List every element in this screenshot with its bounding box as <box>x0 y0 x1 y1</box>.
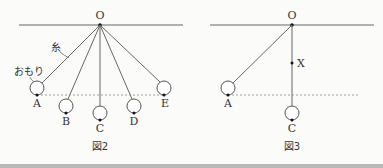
string-pointer <box>60 52 69 58</box>
label-a: A <box>32 97 42 110</box>
label-c: C <box>96 122 104 135</box>
nail-x <box>291 62 294 65</box>
label-c: C <box>288 122 296 135</box>
weight-d <box>127 99 141 113</box>
figure-2: O A B C D E 糸 おもり 図2 <box>14 9 183 152</box>
label-e: E <box>161 97 169 110</box>
string-e <box>100 25 160 82</box>
string-a <box>42 25 100 83</box>
string-b <box>68 25 100 99</box>
pivot-label: O <box>95 9 104 22</box>
weight-a <box>221 81 235 95</box>
figure-3: O X A C 図3 <box>210 9 374 152</box>
label-b: B <box>62 115 70 128</box>
figure-3-caption: 図3 <box>284 141 300 152</box>
weight-c <box>285 106 299 120</box>
weight-pointer <box>30 77 34 82</box>
weight-a <box>30 81 44 95</box>
string-a <box>233 25 292 83</box>
weight-e <box>157 81 171 95</box>
weight-label: おもり <box>14 66 44 77</box>
weight-b <box>59 99 73 113</box>
string-d <box>100 25 132 99</box>
bottom-divider <box>0 164 383 168</box>
string-label: 糸 <box>51 42 61 53</box>
nail-label: X <box>297 57 305 70</box>
diagram-canvas: O A B C D E 糸 おもり 図2 O X <box>0 0 383 168</box>
pivot-label: O <box>287 9 296 22</box>
pendulum-diagrams: O A B C D E 糸 おもり 図2 O X <box>0 0 383 168</box>
weight-c <box>93 106 107 120</box>
label-d: D <box>130 115 139 128</box>
label-a: A <box>223 97 233 110</box>
figure-2-caption: 図2 <box>92 141 108 152</box>
